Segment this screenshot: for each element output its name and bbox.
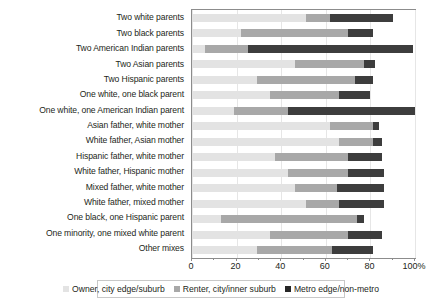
- bar-segment: [192, 91, 270, 99]
- plot-area: [191, 9, 416, 259]
- category-label: Two Hispanic parents: [0, 72, 188, 87]
- axis-tick-minor: [392, 258, 393, 260]
- axis-tick-label: 0: [188, 261, 193, 271]
- bar-row: [192, 243, 415, 259]
- bar-segment: [348, 231, 381, 239]
- stacked-bar: [192, 60, 375, 68]
- bar-segment: [348, 153, 381, 161]
- bar-segment: [275, 153, 349, 161]
- stacked-bar: [192, 107, 415, 115]
- axis-tick-label: 60: [320, 261, 330, 271]
- bar-segment: [295, 184, 337, 192]
- legend-item[interactable]: Renter, city/inner suburb: [174, 284, 276, 294]
- bar-segment: [373, 122, 380, 130]
- bar-row: [192, 227, 415, 243]
- bar-row: [192, 88, 415, 104]
- category-label: Asian father, white mother: [0, 118, 188, 133]
- bar-segment: [192, 138, 339, 146]
- bar-row: [192, 119, 415, 135]
- bar-segment: [192, 122, 330, 130]
- axis-tick-minor: [347, 258, 348, 260]
- bar-segment: [192, 215, 221, 223]
- axis-tick-label: 40: [275, 261, 285, 271]
- category-label: Two Asian parents: [0, 56, 188, 71]
- plot-wrapper: Two white parentsTwo black parentsTwo Am…: [0, 0, 442, 268]
- stacked-bar: [192, 215, 364, 223]
- bar-series-group: [192, 10, 415, 258]
- axis-tick-label: 20: [231, 261, 241, 271]
- bar-segment: [355, 76, 373, 84]
- stacked-bar-chart: Two white parentsTwo black parentsTwo Am…: [0, 0, 442, 308]
- chart-legend: Owner, city edge/suburbRenter, city/inne…: [97, 280, 345, 298]
- bar-segment: [192, 45, 205, 53]
- bar-segment: [373, 138, 382, 146]
- bar-segment: [192, 107, 234, 115]
- axis-tick-minor: [213, 258, 214, 260]
- category-label: White father, mixed mother: [0, 195, 188, 210]
- axis-tick-minor: [303, 258, 304, 260]
- bar-segment: [192, 200, 306, 208]
- bar-segment: [221, 215, 357, 223]
- category-label: One white, one black parent: [0, 87, 188, 102]
- legend-swatch-icon: [63, 286, 69, 292]
- bar-segment: [339, 91, 370, 99]
- stacked-bar: [192, 14, 393, 22]
- bar-segment: [306, 200, 339, 208]
- bar-segment: [192, 29, 241, 37]
- bar-segment: [337, 184, 384, 192]
- legend-swatch-icon: [174, 286, 180, 292]
- category-label: Mixed father, white mother: [0, 179, 188, 194]
- bar-segment: [288, 107, 415, 115]
- stacked-bar: [192, 138, 382, 146]
- bar-segment: [241, 29, 348, 37]
- bar-segment: [295, 60, 364, 68]
- category-label: One white, one American Indian parent: [0, 102, 188, 117]
- axis-tick-label: 100%: [402, 261, 425, 271]
- bar-segment: [192, 76, 257, 84]
- bar-row: [192, 41, 415, 57]
- bar-row: [192, 181, 415, 197]
- legend-label: Owner, city edge/suburb: [72, 284, 165, 294]
- bar-row: [192, 150, 415, 166]
- bar-row: [192, 10, 415, 26]
- category-label: One minority, one mixed white parent: [0, 225, 188, 240]
- stacked-bar: [192, 91, 370, 99]
- bar-segment: [348, 169, 384, 177]
- category-label: Other mixes: [0, 241, 188, 256]
- bar-segment: [357, 215, 364, 223]
- stacked-bar: [192, 29, 373, 37]
- stacked-bar: [192, 169, 384, 177]
- category-label: Two black parents: [0, 25, 188, 40]
- bar-segment: [192, 14, 306, 22]
- stacked-bar: [192, 231, 382, 239]
- bar-segment: [348, 29, 373, 37]
- bar-segment: [192, 184, 295, 192]
- bar-row: [192, 165, 415, 181]
- stacked-bar: [192, 76, 373, 84]
- bar-row: [192, 196, 415, 212]
- bar-row: [192, 26, 415, 42]
- bar-segment: [192, 60, 295, 68]
- bar-segment: [234, 107, 288, 115]
- legend-item[interactable]: Metro edge/non-metro: [285, 284, 379, 294]
- bar-segment: [330, 122, 372, 130]
- bar-segment: [192, 231, 270, 239]
- bar-segment: [270, 91, 339, 99]
- category-label: Two American Indian parents: [0, 41, 188, 56]
- legend-label: Renter, city/inner suburb: [183, 284, 276, 294]
- legend-swatch-icon: [285, 286, 291, 292]
- stacked-bar: [192, 246, 373, 254]
- bar-segment: [192, 169, 288, 177]
- bar-row: [192, 134, 415, 150]
- bar-segment: [339, 200, 384, 208]
- bar-row: [192, 103, 415, 119]
- category-label: Two white parents: [0, 10, 188, 25]
- legend-item[interactable]: Owner, city edge/suburb: [63, 284, 165, 294]
- bar-segment: [288, 169, 348, 177]
- bar-segment: [332, 246, 372, 254]
- stacked-bar: [192, 184, 384, 192]
- gridline: [415, 10, 416, 258]
- bar-segment: [205, 45, 247, 53]
- bar-row: [192, 72, 415, 88]
- stacked-bar: [192, 200, 384, 208]
